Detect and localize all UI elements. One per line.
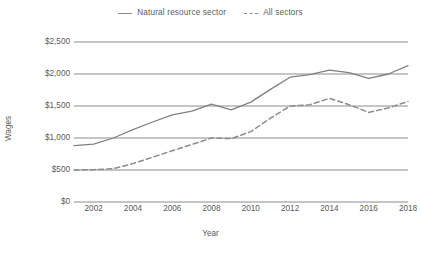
wages-line-chart: Natural resource sector All sectors Wage… [0,0,421,256]
x-axis-title-text: Year [202,229,219,238]
series-line-all-sectors [74,98,408,170]
gridlines [74,42,408,202]
series-lines [74,66,408,170]
x-axis-title: Year [0,229,421,238]
plot-area [0,0,421,256]
